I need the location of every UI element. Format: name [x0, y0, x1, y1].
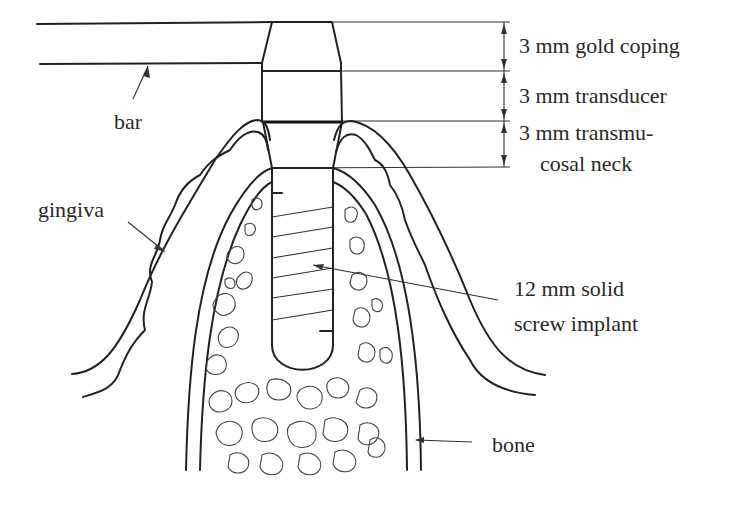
bone-leader-arrow	[415, 437, 472, 443]
screw-implant-shape	[272, 168, 333, 370]
dimension-arrows	[501, 22, 507, 167]
bar-structure	[37, 22, 272, 64]
bar-leader-arrow	[133, 66, 150, 99]
label-bone: bone	[492, 433, 535, 457]
diagram-canvas	[0, 0, 756, 505]
implant-diagram: 3 mm gold coping 3 mm transducer 3 mm tr…	[0, 0, 756, 505]
transmucosal-neck-shape	[263, 122, 342, 168]
label-implant-2: screw implant	[514, 312, 638, 336]
label-transducer: 3 mm transducer	[519, 84, 667, 108]
label-gingiva: gingiva	[38, 198, 104, 222]
transducer-shape	[262, 71, 342, 122]
label-implant-1: 12 mm solid	[514, 277, 624, 301]
label-transmucosal-2: cosal neck	[540, 152, 632, 176]
label-transmucosal-1: 3 mm transmu-	[519, 121, 653, 145]
gold-coping-shape	[262, 22, 341, 71]
label-bar: bar	[114, 110, 142, 134]
label-gold-coping: 3 mm gold coping	[519, 34, 680, 58]
